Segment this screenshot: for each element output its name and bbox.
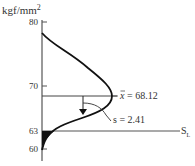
y-unit-label: kgf/mm2: [2, 3, 41, 16]
mean-symbol: x: [119, 90, 125, 101]
tick-label-63: 63: [29, 126, 39, 136]
mean-label: = 68.12: [127, 90, 158, 101]
normal-distribution-chart: kgf/mm2 80 70 63 60 x = 68.12 s = 2.41 S…: [0, 0, 195, 166]
tick-label-60: 60: [29, 144, 39, 154]
tick-label-70: 70: [29, 81, 39, 91]
spec-limit-label: SL: [181, 125, 191, 138]
tick-label-80: 80: [29, 17, 39, 27]
sd-label: s = 2.41: [113, 114, 145, 125]
sd-arrow-head: [79, 109, 87, 115]
distribution-curve: [42, 33, 112, 150]
